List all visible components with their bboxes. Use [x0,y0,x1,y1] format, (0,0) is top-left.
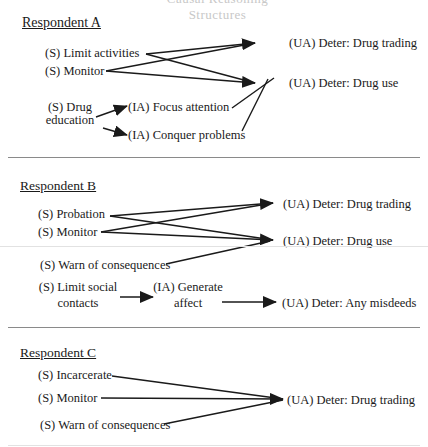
sanction-monitor: (S) Monitor [38,391,97,405]
sanction-limit-activities: (S) Limit activities [45,46,139,60]
sanction-monitor: (S) Monitor [45,64,104,78]
ia-focus-attention: (IA) Focus attention [128,100,229,114]
respondent-a-heading: Respondent A [22,15,101,31]
edge-a-conquer-use [242,79,268,131]
edge-a-edu-focus [96,106,127,117]
ia-conquer-problems: (IA) Conquer problems [128,128,245,142]
ua-drug-trading: (UA) Deter: Drug trading [289,36,417,50]
section-divider-bottom [8,445,420,446]
edge-b-probation-trading [110,203,273,216]
sanction-warn: (S) Warn of consequences [40,418,170,432]
ia-affect: affect [152,296,224,310]
sanction-limit-social: (S) Limit social [38,280,118,294]
ua-drug-trading: (UA) Deter: Drug trading [287,393,415,407]
ia-generate: (IA) Generate [152,280,224,294]
edge-c-monitor [101,398,283,399]
sanction-incarcerate: (S) Incarcerate [38,368,112,382]
respondent-b-heading: Respondent B [20,178,96,194]
sanction-education: education [40,113,100,127]
ua-any-misdeeds: (UA) Deter: Any misdeeds [282,296,416,310]
scan-artifact-line [0,246,428,247]
ua-drug-use: (UA) Deter: Drug use [289,76,398,90]
edge-c-warn [164,400,283,424]
sanction-probation: (S) Probation [38,207,105,221]
sanction-contacts: contacts [38,296,118,310]
sanction-drug: (S) Drug [44,100,96,114]
sanction-warn: (S) Warn of consequences [40,258,170,272]
ua-drug-trading: (UA) Deter: Drug trading [283,197,411,211]
section-divider [8,157,420,158]
respondent-c-heading: Respondent C [20,345,96,361]
edge-a-edu-conquer [103,128,127,135]
sanction-monitor: (S) Monitor [38,225,97,239]
edge-c-incarcerate [112,376,283,399]
edge-a-limit-trading [146,43,255,54]
edge-b-warn-use [166,241,270,264]
section-divider [8,327,420,328]
